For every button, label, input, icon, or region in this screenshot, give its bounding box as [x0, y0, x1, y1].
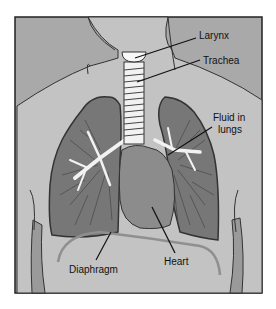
- label-heart: Heart: [164, 256, 188, 267]
- trachea-shape: [124, 62, 144, 144]
- chest-diagram: [0, 0, 276, 309]
- label-fluid-in-lungs-line2: lungs: [218, 124, 242, 135]
- heart-shape: [119, 145, 174, 228]
- label-diaphragm: Diaphragm: [69, 264, 118, 275]
- label-fluid-in-lungs-line1: Fluid in: [213, 112, 245, 123]
- larynx-shape: [122, 52, 146, 62]
- label-larynx: Larynx: [199, 30, 229, 41]
- label-trachea: Trachea: [203, 55, 239, 66]
